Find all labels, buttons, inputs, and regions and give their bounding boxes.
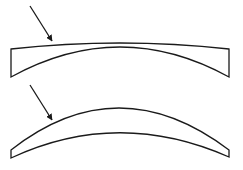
curved-meniscus-lens	[11, 85, 229, 158]
lens-diagram	[0, 0, 243, 170]
arrow-icon	[30, 6, 52, 41]
arrow-icon	[30, 85, 52, 120]
flat-top-lens	[11, 6, 229, 77]
